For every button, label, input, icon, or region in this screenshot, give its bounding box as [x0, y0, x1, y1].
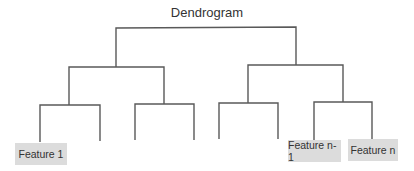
leaf-label-feature-n: Feature n — [348, 139, 398, 161]
right-cluster-link — [248, 65, 343, 103]
leaf-label-feature-1: Feature 1 — [15, 143, 67, 165]
leaf-pair-4 — [314, 102, 372, 140]
left-cluster-link — [69, 67, 164, 105]
leaf-label-feature-n-minus-1: Feature n-1 — [288, 140, 341, 162]
root-link — [116, 27, 296, 67]
leaf-pair-3 — [219, 103, 278, 139]
leaf-pair-2 — [135, 104, 194, 140]
leaf-pair-1 — [40, 105, 100, 142]
